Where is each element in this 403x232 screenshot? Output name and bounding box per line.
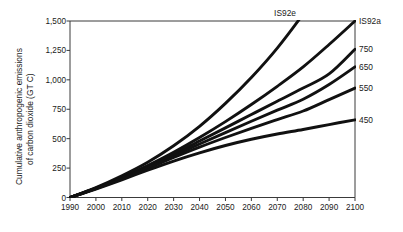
y-tick-label: 1,250 — [46, 46, 67, 55]
series-line-750 — [70, 49, 355, 197]
x-tick-label: 2040 — [190, 203, 209, 212]
x-tick-label: 2010 — [113, 203, 132, 212]
series-line-is92a — [70, 21, 355, 198]
series-label-650: 650 — [359, 62, 373, 72]
series-label-is92e: IS92e — [274, 8, 296, 18]
x-tick-label: 2030 — [165, 203, 184, 212]
y-tick-label: 0 — [61, 194, 66, 203]
y-axis-title-line-1: Cumulative anthropogenic emissions — [14, 48, 24, 185]
x-tick-label: 2060 — [242, 203, 261, 212]
series-label-450: 450 — [359, 115, 373, 125]
y-tick-label: 750 — [52, 105, 66, 114]
series-end-labels: IS92eIS92a750650550450 — [274, 8, 381, 125]
y-axis-tick-marks — [67, 21, 71, 198]
y-axis-title: Cumulative anthropogenic emissions of ca… — [14, 48, 35, 185]
x-tick-label: 2020 — [139, 203, 158, 212]
series-line-550 — [70, 88, 355, 197]
y-tick-label: 250 — [52, 164, 66, 173]
x-axis-tick-labels: 1990200020102020203020402050206020702080… — [61, 203, 365, 212]
series-line-450 — [70, 120, 355, 198]
series-lines — [70, 0, 355, 198]
x-tick-label: 2050 — [216, 203, 235, 212]
series-label-750: 750 — [359, 44, 373, 54]
series-label-550: 550 — [359, 83, 373, 93]
chart-figure: Cumulative anthropogenic emissions of ca… — [0, 0, 403, 232]
x-tick-label: 2100 — [346, 203, 365, 212]
x-tick-label: 2070 — [268, 203, 287, 212]
series-line-is92e — [70, 0, 355, 198]
y-tick-label: 1,000 — [46, 76, 67, 85]
emissions-line-chart: Cumulative anthropogenic emissions of ca… — [0, 0, 403, 232]
x-tick-label: 2000 — [87, 203, 106, 212]
x-axis-tick-marks — [70, 198, 355, 202]
x-tick-label: 2090 — [320, 203, 339, 212]
x-tick-label: 2080 — [294, 203, 313, 212]
y-tick-label: 500 — [52, 135, 66, 144]
axis-frame — [70, 21, 355, 198]
series-line-650 — [70, 67, 355, 198]
y-axis-title-line-2: of carbon dioxide (GT C) — [25, 73, 35, 165]
y-tick-label: 1,500 — [46, 17, 67, 26]
y-axis-tick-labels: 02505007501,0001,2501,500 — [46, 17, 67, 203]
series-label-is92a: IS92a — [359, 16, 381, 26]
x-tick-label: 1990 — [61, 203, 80, 212]
